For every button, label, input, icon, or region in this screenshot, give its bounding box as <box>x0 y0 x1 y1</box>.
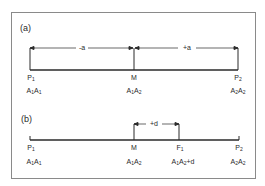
panel-a-label: (a) <box>20 23 31 33</box>
genotype-a2a2-label: A2A2 <box>231 158 246 167</box>
genotype-a1a1-label: A1A1 <box>27 158 42 167</box>
point-p2-label: P2 <box>235 144 242 153</box>
point-m-label: M <box>131 144 137 152</box>
point-p1-label: P1 <box>27 74 34 83</box>
point-p1-label: P1 <box>27 144 34 153</box>
segment-plus-a-label: +a <box>183 44 191 52</box>
panel-b-lines <box>30 123 239 141</box>
genotype-a1a2-label: A1A2 <box>127 158 142 167</box>
genotype-a2a2-label: A2A2 <box>231 87 246 96</box>
segment-minus-a-label: -a <box>79 44 85 52</box>
panel-a-lines <box>30 47 238 71</box>
genotype-a1a1-label: A1A1 <box>27 87 42 96</box>
genotype-a1a2-label: A1A2 <box>127 87 142 96</box>
point-f1-label: F1 <box>176 144 183 153</box>
point-m-label: M <box>131 74 137 82</box>
point-p2-label: P2 <box>234 74 241 83</box>
segment-plus-d-label: +d <box>150 120 158 128</box>
genotype-a1a2-plus-d-label: A1A2+d <box>172 158 195 167</box>
panel-b-label: (b) <box>21 114 32 124</box>
